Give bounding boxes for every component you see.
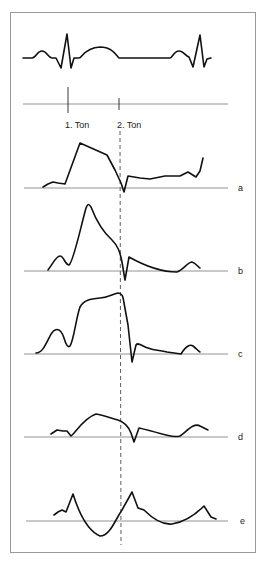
label-a: a bbox=[238, 183, 243, 193]
label-d: d bbox=[238, 432, 243, 442]
curve-d bbox=[51, 414, 208, 442]
second-tone-dashed-line bbox=[120, 131, 121, 545]
curve-e bbox=[54, 492, 216, 536]
label-c: c bbox=[238, 349, 243, 359]
second-tone-label: 2. Ton bbox=[117, 120, 141, 130]
label-b: b bbox=[238, 266, 243, 276]
diagram-figure: 1. Ton 2. Ton a b c d e bbox=[0, 0, 268, 572]
ecg-trace bbox=[23, 34, 211, 68]
figure-frame bbox=[11, 13, 256, 553]
first-tone-label: 1. Ton bbox=[65, 120, 89, 130]
curve-a bbox=[43, 143, 203, 192]
curve-c bbox=[36, 293, 200, 362]
curve-b bbox=[48, 205, 200, 281]
label-e: e bbox=[240, 516, 245, 526]
